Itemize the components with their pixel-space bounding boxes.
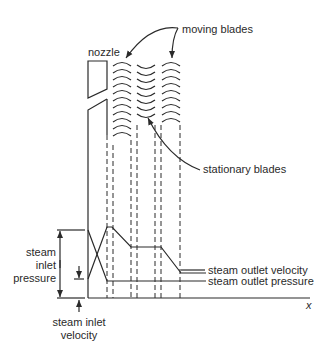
steam-inlet-velocity-label: steam inlet velocity (40, 316, 118, 342)
moving-blade (113, 112, 131, 116)
moving-blade (162, 91, 180, 95)
x-axis-label: x (306, 299, 312, 312)
moving-blade (113, 70, 131, 74)
label-line: steam inlet (40, 316, 118, 329)
nozzle-label: nozzle (88, 46, 120, 59)
moving-blade (162, 84, 180, 88)
moving-blade (162, 70, 180, 74)
moving-blade (113, 133, 131, 137)
stage-boundaries (107, 125, 180, 298)
stationary-blades-label: stationary blades (203, 163, 286, 176)
moving-blade (113, 63, 131, 67)
moving-blade (113, 126, 131, 130)
moving-blade (162, 119, 180, 123)
moving-blade (113, 84, 131, 88)
moving-blades-label: moving blades (182, 23, 253, 36)
moving-blades-arrow-2 (172, 28, 178, 58)
nozzle-upper (88, 61, 107, 98)
label-line: velocity (40, 329, 118, 342)
stationary-blades-arrow (148, 118, 200, 170)
steam-outlet-pressure-label: steam outlet pressure (208, 275, 314, 288)
label-line: inlet (2, 259, 56, 272)
moving-blade (162, 77, 180, 81)
moving-blade (162, 63, 180, 67)
velocity-curve (88, 227, 206, 279)
moving-blade (113, 119, 131, 123)
stationary-blade (137, 79, 155, 83)
stationary-blade (137, 107, 155, 111)
stationary-blade (137, 100, 155, 104)
turbine-diagram: nozzle moving blades stationary blades s… (0, 0, 327, 350)
stationary-blade (137, 65, 155, 69)
moving-blade (162, 105, 180, 109)
steam-inlet-pressure-label: steam inlet pressure (2, 246, 56, 285)
label-line: pressure (2, 272, 56, 285)
moving-blade (113, 98, 131, 102)
stationary-blade (137, 72, 155, 76)
stationary-blade (137, 93, 155, 97)
nozzle-lower (88, 99, 107, 298)
moving-blade (113, 91, 131, 95)
moving-blade (162, 98, 180, 102)
blade-rows (113, 63, 180, 137)
label-line: steam (2, 246, 56, 259)
moving-blade (113, 77, 131, 81)
moving-blades-arrow-1 (126, 28, 178, 58)
stationary-blade (137, 86, 155, 90)
moving-blade (162, 112, 180, 116)
moving-blade (113, 105, 131, 109)
stationary-blade (137, 114, 155, 118)
